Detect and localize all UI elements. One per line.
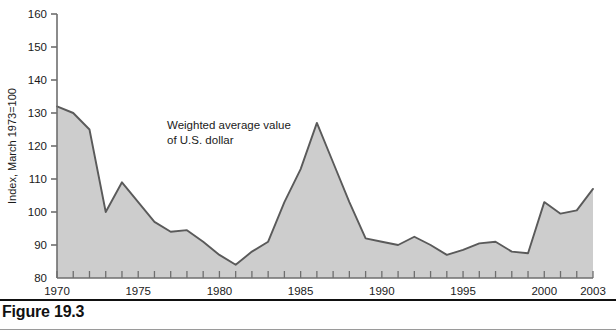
series-annotation-line1: Weighted average value [167, 119, 291, 131]
x-tick-label: 2003 [580, 285, 606, 296]
x-tick-label: 1975 [125, 285, 151, 296]
x-tick-label: 1980 [207, 285, 233, 296]
chart-figure: 8090100110120130140150160197019751980198… [0, 0, 616, 296]
y-tick-label: 80 [34, 272, 47, 284]
x-tick-label: 2000 [531, 285, 557, 296]
figure-page: 8090100110120130140150160197019751980198… [0, 0, 616, 334]
y-tick-label: 90 [34, 239, 47, 251]
caption-rule-top [0, 299, 616, 301]
x-tick-label: 1970 [44, 285, 70, 296]
series-annotation: Weighted average valueof U.S. dollar [167, 119, 291, 146]
x-tick-label: 1990 [369, 285, 395, 296]
x-axis-tick-labels: 19701975198019851990199520002003 [44, 285, 606, 296]
dollar-index-area-chart: 8090100110120130140150160197019751980198… [0, 0, 616, 296]
x-tick-label: 1985 [288, 285, 314, 296]
figure-caption: Figure 19.3 [0, 299, 616, 334]
series-annotation-line2: of U.S. dollar [167, 134, 234, 146]
y-tick-label: 140 [28, 74, 47, 86]
x-tick-label: 1995 [450, 285, 476, 296]
y-tick-label: 120 [28, 140, 47, 152]
y-axis-ticks: 8090100110120130140150160 [28, 8, 57, 284]
y-tick-label: 110 [29, 173, 47, 185]
y-tick-label: 130 [28, 107, 47, 119]
y-tick-label: 150 [28, 41, 47, 53]
figure-caption-label: Figure 19.3 [2, 303, 84, 321]
y-axis-title: Index, March 1973=100 [6, 88, 18, 204]
y-tick-label: 100 [28, 206, 47, 218]
caption-rule-bottom [0, 329, 616, 330]
plot-area-group [57, 106, 593, 278]
y-tick-label: 160 [28, 8, 47, 20]
